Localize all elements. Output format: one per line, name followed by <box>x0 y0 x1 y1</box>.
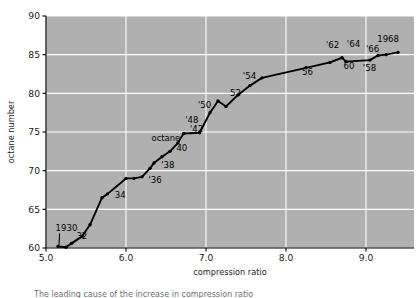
year-annotation-label: '54 <box>243 71 256 81</box>
year-annotation-label: '38 <box>161 160 174 170</box>
year-annotation-label: '36 <box>148 175 161 185</box>
data-point-marker <box>384 53 387 56</box>
data-point-marker <box>64 246 67 249</box>
year-annotation-label: '50 <box>198 100 211 110</box>
data-point-marker <box>396 51 399 54</box>
data-point-marker <box>132 177 135 180</box>
data-point-marker <box>152 161 155 164</box>
x-tick-label: 5.0 <box>39 252 54 263</box>
y-tick-label: 70 <box>28 165 40 176</box>
data-point-marker <box>208 111 211 114</box>
data-point-marker <box>182 132 185 135</box>
data-point-marker <box>56 245 59 248</box>
year-annotation-label: '62 <box>326 40 339 50</box>
data-point-marker <box>168 150 171 153</box>
x-tick-label: 9.0 <box>359 252 374 263</box>
data-point-marker <box>224 105 227 108</box>
year-annotation-label: '58 <box>363 63 376 73</box>
x-axis-label: compression ratio <box>193 267 266 277</box>
x-tick-label: 7.0 <box>199 252 214 263</box>
data-point-marker <box>216 99 219 102</box>
year-annotation-label: 32 <box>76 231 87 241</box>
data-point-marker <box>260 76 263 79</box>
y-axis-label: octane number <box>6 100 16 163</box>
data-point-marker <box>160 155 163 158</box>
y-tick-label: 85 <box>28 49 40 60</box>
data-point-marker <box>106 192 109 195</box>
x-tick-label: 6.0 <box>119 252 134 263</box>
y-tick-label: 65 <box>28 204 40 215</box>
year-annotation-label: 34 <box>115 190 126 200</box>
y-tick-label: 75 <box>28 126 40 137</box>
year-annotation-label: 1930 <box>56 223 78 233</box>
year-annotation-label: 40 <box>176 143 187 153</box>
data-point-marker <box>328 61 331 64</box>
data-point-marker <box>100 196 103 199</box>
data-point-marker <box>70 242 73 245</box>
data-point-marker <box>340 56 343 59</box>
year-annotation-label: 56 <box>302 67 313 77</box>
year-annotation-label: '42 <box>190 124 203 134</box>
y-tick-label: 90 <box>28 10 40 21</box>
year-annotation-label: '66 <box>366 44 379 54</box>
data-point-marker <box>88 223 91 226</box>
data-point-marker <box>140 175 143 178</box>
figure-container: 5.06.07.08.09.0 60657075808590 19303234'… <box>0 0 420 298</box>
year-annotation-label: '64 <box>347 39 360 49</box>
annotation-leader-line <box>59 233 60 244</box>
y-tick-labels: 60657075808590 <box>28 10 40 253</box>
figure-caption-strip: The leading cause of the increase in com… <box>0 290 420 298</box>
year-annotation-label: '48 <box>185 115 198 125</box>
y-tick-label: 60 <box>28 242 40 253</box>
x-tick-labels: 5.06.07.08.09.0 <box>39 252 374 263</box>
y-tick-label: 80 <box>28 88 40 99</box>
data-point-marker <box>148 167 151 170</box>
x-tick-label: 8.0 <box>279 252 294 263</box>
annotation-octane-label: octane <box>152 133 181 143</box>
figure-caption: The leading cause of the increase in com… <box>34 290 253 298</box>
year-annotation-label: 52 <box>230 88 241 98</box>
year-annotation-label: 1968 <box>377 34 399 44</box>
octane-compression-line-chart: 5.06.07.08.09.0 60657075808590 19303234'… <box>0 0 420 298</box>
data-point-marker <box>124 177 127 180</box>
data-point-marker <box>248 84 251 87</box>
year-annotation-label: 60 <box>344 61 355 71</box>
data-point-marker <box>368 58 371 61</box>
